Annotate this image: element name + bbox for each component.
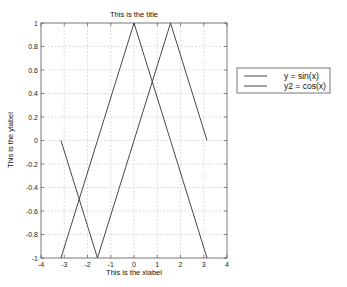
x-tick-label: 4 (225, 261, 229, 268)
y-tick-label: -1 (32, 255, 38, 262)
y-tick-label: 0.4 (28, 90, 38, 97)
x-tick-label: -4 (38, 261, 44, 268)
y-tick-label: 1 (34, 20, 38, 27)
x-tick-label: 2 (179, 261, 183, 268)
x-tick-label: 1 (155, 261, 159, 268)
x-tick-label: -1 (108, 261, 114, 268)
y-tick-label: 0.2 (28, 114, 38, 121)
legend-label-cos: y2 = cos(x) (284, 81, 326, 91)
y-tick-label: -0.8 (26, 231, 38, 238)
x-tick-label: -2 (84, 261, 90, 268)
x-tick-label: 3 (202, 261, 206, 268)
x-axis-label: This is the xlabel (106, 268, 162, 277)
y-tick-label: -0.2 (26, 161, 38, 168)
y-axis-label: This is the ylabel (6, 112, 15, 168)
figure: -4-3-2-101234-1-0.8-0.6-0.4-0.200.20.40.… (0, 0, 347, 287)
y-tick-label: -0.6 (26, 208, 38, 215)
y-tick-label: 0.6 (28, 67, 38, 74)
x-tick-label: 0 (132, 261, 136, 268)
x-tick-label: -3 (61, 261, 67, 268)
legend: y = sin(x) y2 = cos(x) (237, 68, 330, 93)
legend-label-sin: y = sin(x) (284, 71, 319, 81)
y-tick-label: 0.8 (28, 43, 38, 50)
y-tick-label: -0.4 (26, 184, 38, 191)
chart-title: This is the title (110, 10, 158, 19)
y-tick-label: 0 (34, 137, 38, 144)
